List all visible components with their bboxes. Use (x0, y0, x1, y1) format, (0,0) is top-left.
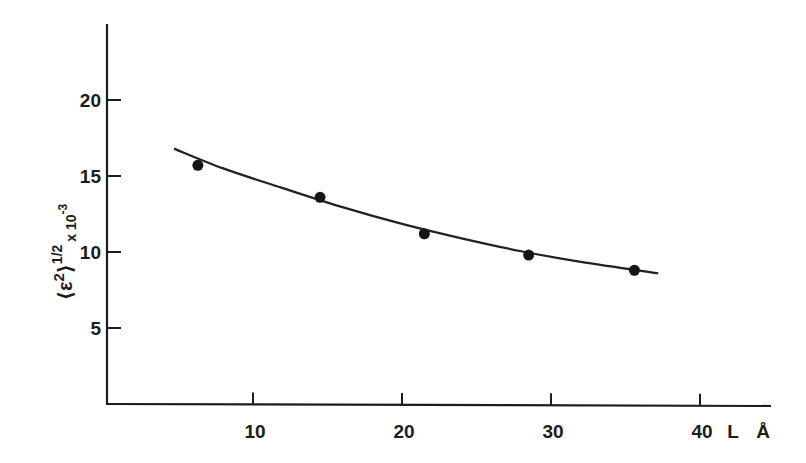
x-tick-label: 10 (244, 421, 265, 442)
ylabel-open: ⟨ε (54, 281, 76, 300)
ylabel-exp10: -3 (56, 203, 70, 214)
data-point (523, 250, 534, 261)
y-tick-label: 20 (80, 90, 101, 111)
y-tick-label: 15 (80, 166, 102, 187)
ylabel-mult: x 10 (63, 214, 79, 241)
y-tick-label: 5 (90, 318, 101, 339)
chart: 5101520 10203040 ⟨ε2⟩1/2x 10-3 L Å (0, 0, 806, 463)
fitted-curve (174, 149, 658, 274)
ylabel-exp: 1/2 (49, 244, 65, 264)
svg-text:⟨ε2⟩1/2x 10-3: ⟨ε2⟩1/2x 10-3 (49, 203, 79, 300)
data-point (315, 192, 326, 203)
x-axis (106, 404, 771, 406)
axes (106, 24, 771, 406)
y-tick-label: 10 (80, 242, 101, 263)
y-ticks: 5101520 (80, 90, 121, 339)
data-point (192, 160, 203, 171)
x-ticks: 10203040 (244, 392, 712, 442)
x-tick-label: 20 (393, 421, 414, 442)
data-points (192, 160, 640, 276)
x-axis-label: L Å (727, 421, 770, 442)
x-tick-label: 30 (542, 421, 563, 442)
y-axis-label: ⟨ε2⟩1/2x 10-3 (49, 203, 79, 300)
xlabel-symbol: L (727, 421, 739, 442)
x-tick-label: 40 (691, 421, 712, 442)
ylabel-sup2: 2 (50, 273, 67, 281)
xlabel-unit: Å (756, 421, 770, 442)
data-point (629, 265, 640, 276)
ylabel-close: ⟩ (54, 264, 76, 273)
data-point (419, 228, 430, 239)
